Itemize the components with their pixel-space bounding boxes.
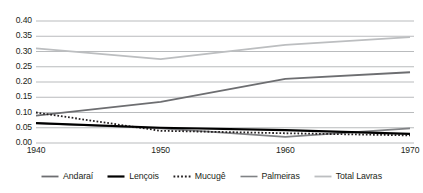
- plot-area: [0, 0, 423, 160]
- y-axis-tick-label: 0.35: [4, 31, 32, 40]
- legend-item-palmeiras[interactable]: Palmeiras: [240, 171, 300, 181]
- legend-label: Palmeiras: [262, 171, 300, 181]
- legend-swatch-icon: [107, 173, 125, 180]
- y-axis-tick-label: 0.10: [4, 108, 32, 117]
- legend-item-total-lavras[interactable]: Total Lavras: [314, 171, 382, 181]
- x-axis-tick-labels: 1940195019601970: [0, 145, 423, 161]
- x-axis-tick-label: 1970: [390, 145, 423, 155]
- legend-label: Lençois: [129, 171, 159, 181]
- legend-swatch-icon: [314, 173, 332, 180]
- legend-label: Mucugê: [195, 171, 226, 181]
- legend-label: Total Lavras: [336, 171, 382, 181]
- x-axis-tick-label: 1960: [265, 145, 305, 155]
- legend-item-andara-[interactable]: Andaraí: [41, 171, 93, 181]
- y-axis-tick-label: 0.40: [4, 16, 32, 25]
- series-line-andara-: [36, 72, 410, 115]
- x-axis-tick-label: 1940: [16, 145, 56, 155]
- x-axis-tick-label: 1950: [141, 145, 181, 155]
- plot-svg: [0, 0, 423, 160]
- series-lines: [36, 37, 410, 137]
- y-axis-tick-label: 0.30: [4, 47, 32, 56]
- chart-legend: AndaraíLençoisMucugêPalmeirasTotal Lavra…: [0, 166, 423, 186]
- y-axis-tick-label: 0.25: [4, 62, 32, 71]
- y-axis-tick-label: 0.15: [4, 92, 32, 101]
- y-axis-tick-label: 0.20: [4, 77, 32, 86]
- legend-swatch-icon: [240, 173, 258, 180]
- y-axis-tick-label: 0.05: [4, 123, 32, 132]
- legend-item-len-ois[interactable]: Lençois: [107, 171, 159, 181]
- legend-item-mucug-[interactable]: Mucugê: [173, 171, 226, 181]
- legend-label: Andaraí: [63, 171, 93, 181]
- series-line-total-lavras: [36, 37, 410, 59]
- legend-swatch-icon: [173, 173, 191, 180]
- legend-swatch-icon: [41, 173, 59, 180]
- y-axis-tick-labels: 0.000.050.100.150.200.250.300.350.40: [2, 0, 32, 160]
- line-chart: 0.000.050.100.150.200.250.300.350.40 194…: [0, 0, 423, 193]
